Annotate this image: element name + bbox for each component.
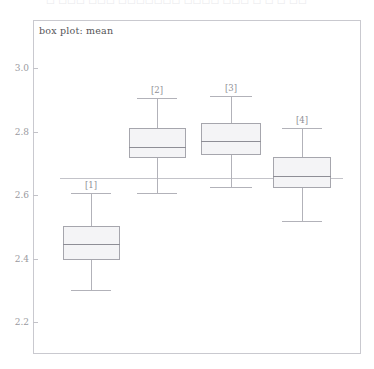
lower-whisker-cap: [210, 187, 252, 188]
y-tick-mark: [33, 322, 38, 323]
upper-whisker-cap: [210, 96, 252, 97]
box-iqr[interactable]: [129, 128, 186, 158]
boxplot-label-2: [2]: [151, 85, 163, 94]
upper-whisker-line: [157, 98, 158, 128]
boxplot-label-4: [4]: [296, 115, 308, 124]
upper-whisker-cap: [137, 98, 177, 99]
lower-whisker-cap: [282, 221, 322, 222]
box-iqr[interactable]: [201, 123, 261, 155]
box-iqr[interactable]: [273, 157, 331, 188]
median-line: [129, 147, 186, 148]
y-tick-mark: [33, 195, 38, 196]
y-axis-line: [33, 53, 34, 353]
y-tick-mark: [33, 132, 38, 133]
y-tick-label: 2.2: [15, 318, 29, 327]
plot-area: 3.02.82.62.42.2 [1][2][3][4]: [33, 20, 361, 354]
lower-whisker-line: [231, 155, 232, 187]
upper-whisker-line: [231, 96, 232, 123]
y-tick-label: 2.4: [15, 254, 29, 263]
upper-whisker-line: [302, 128, 303, 158]
median-line: [201, 141, 261, 142]
y-tick-label: 3.0: [15, 64, 29, 73]
y-tick-label: 2.6: [15, 191, 29, 200]
lower-whisker-line: [91, 260, 92, 290]
lower-whisker-cap: [137, 193, 177, 194]
cropped-header-strip: □ □□□ □□□ □□□□□□□ □□□□ □□□ □ □ □ □□: [0, 0, 374, 13]
lower-whisker-cap: [71, 290, 111, 291]
lower-whisker-line: [302, 188, 303, 221]
y-tick-label: 2.8: [15, 127, 29, 136]
y-tick-mark: [33, 68, 38, 69]
y-tick-mark: [33, 259, 38, 260]
median-line: [63, 244, 120, 245]
upper-whisker-cap: [71, 193, 111, 194]
upper-whisker-line: [91, 193, 92, 226]
lower-whisker-line: [157, 158, 158, 193]
cropped-header-text: □ □□□ □□□ □□□□□□□ □□□□ □□□ □ □ □ □□: [46, 0, 307, 5]
boxplot-label-1: [1]: [85, 180, 97, 189]
median-line: [273, 176, 331, 177]
boxplot-label-3: [3]: [225, 83, 237, 92]
upper-whisker-cap: [282, 128, 322, 129]
